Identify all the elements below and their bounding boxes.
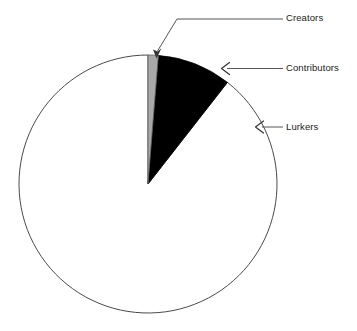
pie-label-contributors: Contributors: [286, 62, 339, 73]
callout-creators-line: [158, 19, 284, 51]
callout-contributors: [222, 63, 284, 75]
pie-chart-figure: Creators Contributors Lurkers: [0, 0, 357, 331]
pie-chart-canvas: [0, 0, 357, 331]
callout-creators: [153, 19, 283, 59]
pie-label-lurkers: Lurkers: [286, 121, 318, 132]
pie-label-creators: Creators: [286, 12, 323, 23]
